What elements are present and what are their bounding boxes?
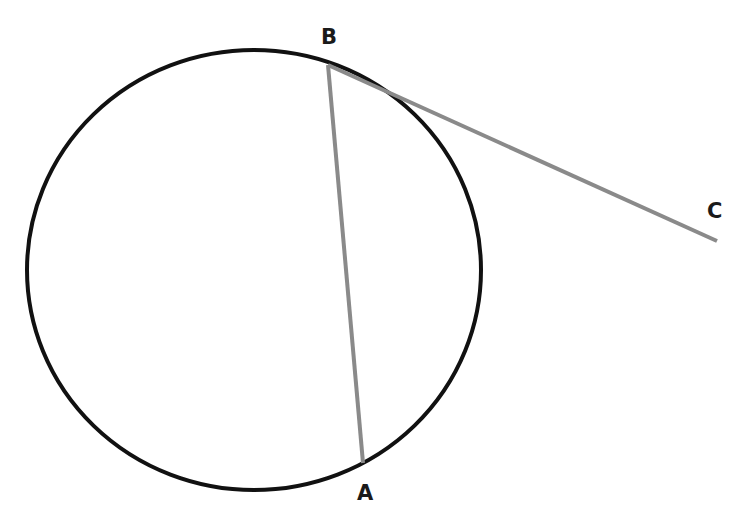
- point-label-a: A: [357, 481, 374, 505]
- chord-ba: [328, 65, 363, 463]
- circle: [27, 50, 481, 490]
- point-label-b: B: [321, 25, 337, 49]
- point-label-c: C: [707, 199, 722, 223]
- tangent-bc: [328, 65, 717, 241]
- geometry-diagram: B A C: [0, 0, 739, 517]
